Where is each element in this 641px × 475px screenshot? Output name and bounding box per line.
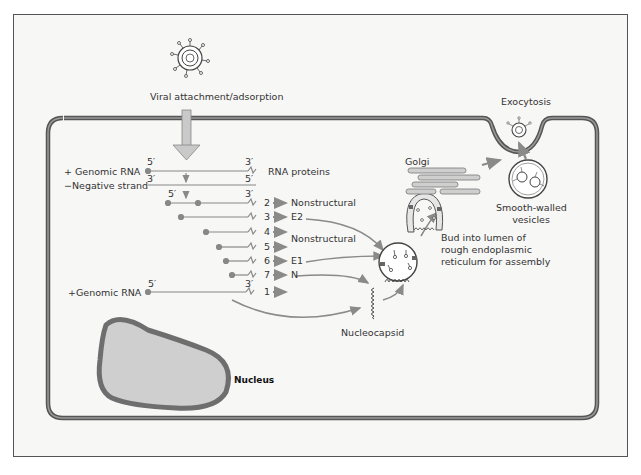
nucleocapsid-label: Nucleocapsid xyxy=(341,328,404,338)
exocytosis-label: Exocytosis xyxy=(501,97,551,107)
golgi-label: Golgi xyxy=(405,157,429,167)
three-prime-label: 3′ xyxy=(147,174,155,184)
protein-label: N xyxy=(291,270,298,280)
nucleus-label: Nucleus xyxy=(234,376,274,385)
virion-icon xyxy=(171,39,210,78)
smooth-vesicle-icon xyxy=(509,160,547,198)
nucleocapsid-icon xyxy=(372,288,375,319)
bud-label-2: rough endoplasmic xyxy=(441,245,532,255)
protein-label: Nonstructural xyxy=(291,198,356,208)
protein-num: 5 xyxy=(264,242,270,252)
protein-label: E2 xyxy=(291,212,303,222)
viral-attachment-label: Viral attachment/adsorption xyxy=(150,92,283,102)
three-prime-label: 3′ xyxy=(245,279,253,289)
plus-genomic-rna-label: + Genomic RNA xyxy=(64,167,140,177)
three-prime-label: 3′ xyxy=(245,157,253,167)
smooth-vesicles-label-2: vesicles xyxy=(496,215,566,225)
bud-label-1: Bud into lumen of xyxy=(441,233,526,243)
protein-num: 3 xyxy=(264,212,270,222)
protein-num: 2 xyxy=(264,198,270,208)
plus-genomic-rna-label-2: +Genomic RNA xyxy=(68,288,141,298)
protein-num: 4 xyxy=(264,227,270,237)
golgi-icon xyxy=(406,168,480,194)
smooth-vesicles-label-1: Smooth-walled xyxy=(496,203,566,213)
five-prime-label: 5′ xyxy=(148,279,156,289)
protein-num: 7 xyxy=(264,270,270,280)
five-prime-label: 5′ xyxy=(168,189,176,199)
translation-arrows xyxy=(273,203,286,292)
negative-strand-label: −Negative strand xyxy=(64,181,148,191)
budding-vesicle-icon xyxy=(407,193,443,232)
rna-strands xyxy=(146,167,257,295)
protein-num: 6 xyxy=(264,256,270,266)
three-prime-label: 3′ xyxy=(245,189,253,199)
nucleus-icon xyxy=(99,320,228,409)
rna-proteins-header: RNA proteins xyxy=(268,167,330,177)
exocytosed-virion-icon xyxy=(507,117,531,137)
bud-label-3: reticulum for assembly xyxy=(441,257,550,267)
protein-label: E1 xyxy=(291,256,303,266)
five-prime-label: 5′ xyxy=(147,157,155,167)
protein-num: 1 xyxy=(264,287,270,297)
protein-label: Nonstructural xyxy=(291,234,356,244)
five-prime-label: 5′ xyxy=(245,174,253,184)
rer-vesicle-icon xyxy=(379,243,417,282)
